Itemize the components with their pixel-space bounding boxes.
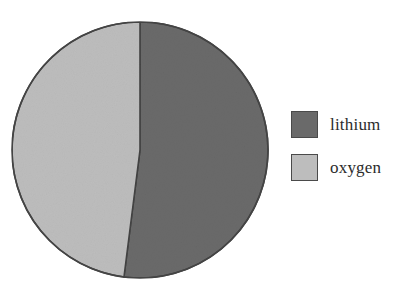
legend-item-oxygen[interactable]: oxygen [291, 153, 381, 182]
legend-label-lithium: lithium [330, 116, 381, 133]
legend-label-oxygen: oxygen [330, 159, 381, 176]
legend-swatch-oxygen [291, 154, 318, 181]
pie-slice-oxygen[interactable] [12, 22, 140, 277]
legend-swatch-lithium [291, 111, 318, 138]
chart-legend: lithium oxygen [291, 110, 381, 182]
pie-chart-figure: lithium oxygen [0, 0, 413, 293]
pie-slice-lithium[interactable] [124, 22, 268, 278]
legend-item-lithium[interactable]: lithium [291, 110, 381, 139]
